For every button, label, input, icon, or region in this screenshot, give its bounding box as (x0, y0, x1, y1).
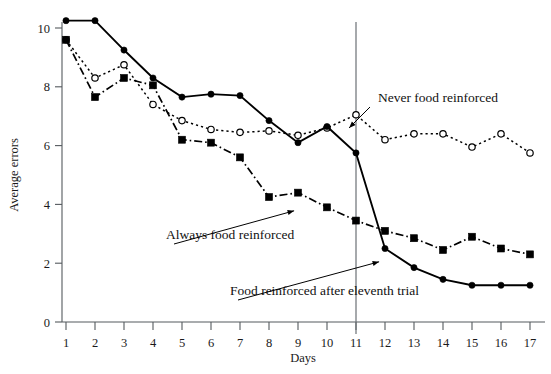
data-point (295, 132, 301, 138)
y-tick-label-8: 8 (44, 80, 50, 94)
data-point (150, 82, 157, 89)
annotations-group: Never food reinforcedAlways food reinfor… (166, 90, 498, 300)
data-point (411, 235, 418, 242)
x-tick-label-11: 11 (350, 336, 362, 350)
x-tick-label-13: 13 (408, 336, 421, 350)
data-point (382, 245, 388, 251)
chart-figure: 0 2 4 6 8 10 1234567891011121314151617 D… (0, 0, 551, 374)
annotation-label: Never food reinforced (378, 90, 498, 105)
x-tick-label-2: 2 (92, 336, 98, 350)
data-point (179, 94, 185, 100)
x-tick-label-5: 5 (179, 336, 185, 350)
data-point (150, 101, 156, 107)
annotation-never-food-reinforced: Never food reinforced (349, 90, 498, 128)
series-food-reinforced-after-eleventh-trial (63, 18, 533, 289)
x-tick-label-10: 10 (321, 336, 334, 350)
x-tick-label-4: 4 (150, 336, 157, 350)
series-always-food-reinforced (63, 36, 534, 258)
data-point (208, 139, 215, 146)
data-point (295, 189, 302, 196)
annotation-arrowhead (287, 210, 294, 215)
data-point (150, 75, 156, 81)
annotation-label: Always food reinforced (166, 227, 294, 242)
series-group (63, 18, 534, 289)
y-tick-label-2: 2 (44, 257, 50, 271)
data-point (411, 131, 417, 137)
x-tick-label-14: 14 (437, 336, 450, 350)
x-axis-title: Days (290, 351, 316, 365)
data-point (208, 126, 214, 132)
data-point (469, 282, 475, 288)
x-tick-label-1: 1 (63, 336, 69, 350)
data-point (208, 91, 214, 97)
data-point (382, 137, 388, 143)
data-point (92, 18, 98, 24)
data-point (440, 131, 446, 137)
x-tick-label-12: 12 (379, 336, 392, 350)
annotation-arrowhead (372, 261, 379, 266)
data-point (63, 36, 70, 43)
x-tick-label-17: 17 (524, 336, 537, 350)
data-point (266, 128, 272, 134)
axes-group (62, 22, 545, 322)
x-tick-label-3: 3 (121, 336, 127, 350)
data-point (295, 140, 301, 146)
data-point (498, 245, 505, 252)
data-point (121, 74, 128, 81)
data-point (527, 282, 533, 288)
x-tick-label-6: 6 (208, 336, 214, 350)
data-point (353, 217, 360, 224)
data-point (237, 129, 243, 135)
data-point (527, 150, 533, 156)
x-tick-label-7: 7 (237, 336, 243, 350)
data-point (266, 194, 273, 201)
x-tick-label-15: 15 (466, 336, 479, 350)
data-point (121, 47, 127, 53)
annotation-always-food-reinforced: Always food reinforced (166, 210, 294, 244)
data-point (92, 75, 98, 81)
data-point (498, 131, 504, 137)
data-point (121, 62, 127, 68)
y-tick-label-0: 0 (44, 316, 50, 330)
x-tick-label-16: 16 (495, 336, 508, 350)
data-point (179, 117, 185, 123)
x-ticks-group: 1234567891011121314151617 (63, 322, 536, 350)
data-point (469, 144, 475, 150)
y-tick-label-6: 6 (44, 139, 50, 153)
data-point (440, 246, 447, 253)
annotation-food-reinforced-after-eleventh-trial: Food reinforced after eleventh trial (230, 261, 419, 300)
data-point (353, 150, 359, 156)
data-point (324, 204, 331, 211)
y-tick-label-4: 4 (44, 198, 51, 212)
data-point (92, 94, 99, 101)
annotation-label: Food reinforced after eleventh trial (230, 283, 419, 298)
data-point (63, 18, 69, 24)
data-point (266, 118, 272, 124)
x-tick-label-9: 9 (295, 336, 301, 350)
data-point (382, 227, 389, 234)
data-point (237, 93, 243, 99)
series-line (66, 21, 530, 286)
data-point (498, 282, 504, 288)
x-tick-label-8: 8 (266, 336, 272, 350)
data-point (411, 265, 417, 271)
data-point (324, 123, 330, 129)
data-point (440, 276, 446, 282)
y-tick-label-10: 10 (38, 22, 51, 36)
data-point (179, 136, 186, 143)
y-ticks-group: 0 2 4 6 8 10 (38, 22, 63, 330)
series-line (66, 40, 530, 255)
chart-svg: 0 2 4 6 8 10 1234567891011121314151617 D… (0, 0, 551, 374)
data-point (237, 154, 244, 161)
data-point (469, 233, 476, 240)
y-axis-title: Average errors (7, 138, 21, 212)
data-point (353, 112, 359, 118)
data-point (527, 251, 534, 258)
